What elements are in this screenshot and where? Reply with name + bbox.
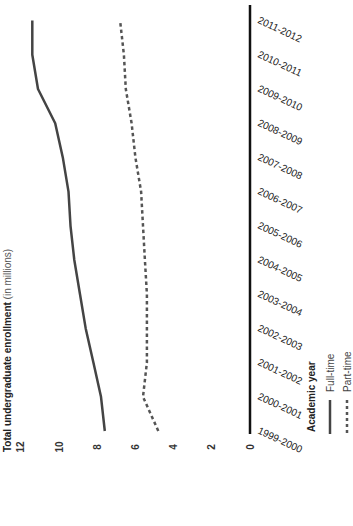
category-label: 2007-2008 [256,151,304,181]
legend-part-time-label: Part-time [342,351,353,392]
value-axis-labels: 024681012 [15,441,255,453]
category-axis-labels: 1999-20002000-20012001-20022002-20032003… [256,14,304,455]
category-label: 2003-2004 [256,288,304,318]
category-label: 1999-2000 [256,425,304,455]
value-tick-label: 10 [54,441,65,453]
series-line-part-time [120,21,158,431]
value-tick-label: 0 [245,444,256,450]
legend-title: Academic year [306,361,317,432]
value-tick-label: 8 [92,444,103,450]
legend: Academic year Full-time Part-time [306,351,353,434]
series-line-full-time [32,21,105,431]
value-tick-label: 12 [15,441,26,453]
series-layer [32,21,158,431]
category-label: 2005-2006 [256,220,304,250]
value-axis-title-unit: (in millions) [2,249,13,300]
category-label: 2006-2007 [256,185,304,215]
value-tick-label: 6 [130,444,141,450]
value-tick-label: 4 [168,444,179,450]
category-label: 2009-2010 [256,83,304,113]
value-tick-label: 2 [206,444,217,450]
category-label: 2010-2011 [256,49,304,79]
category-label: 2002-2003 [256,322,304,352]
category-label: 2011-2012 [256,14,304,44]
category-label: 2004-2005 [256,254,304,284]
category-label: 2008-2009 [256,117,304,147]
category-label: 2000-2001 [256,391,304,421]
value-axis-title: Total undergraduate enrollment (in milli… [2,249,13,452]
category-label: 2001-2002 [256,356,304,386]
legend-full-time-label: Full-time [325,353,336,392]
enrollment-line-chart: 1999-20002000-20012001-20022002-20032003… [0,0,353,526]
value-axis-title-bold: Total undergraduate enrollment [2,302,13,452]
